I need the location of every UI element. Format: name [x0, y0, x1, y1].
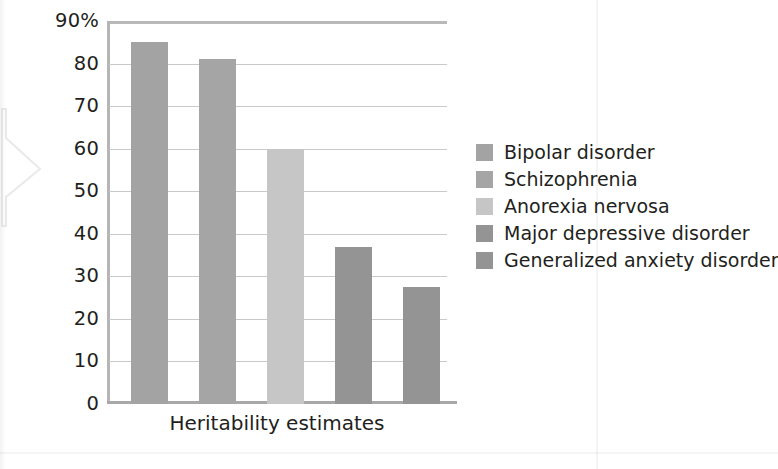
legend-swatch-icon-2	[476, 198, 493, 215]
legend-item-4[interactable]: Generalized anxiety disorder	[476, 247, 766, 274]
x-axis-title: Heritability estimates	[107, 410, 447, 436]
heritability-bar-chart: 90% 80 70 60 50 40 30 20 10 0 Heritabili…	[0, 0, 778, 469]
plot-area	[107, 21, 447, 404]
bar-2[interactable]	[267, 149, 304, 404]
legend-swatch-icon-1	[476, 171, 493, 188]
chart-legend: Bipolar disorderSchizophreniaAnorexia ne…	[476, 139, 766, 274]
legend-swatch-icon-3	[476, 225, 493, 242]
bars-layer	[107, 21, 447, 404]
y-tick-20: 20	[31, 309, 99, 329]
legend-label-1: Schizophrenia	[504, 170, 638, 189]
y-tick-30: 30	[31, 266, 99, 286]
legend-label-3: Major depressive disorder	[504, 224, 750, 243]
legend-item-0[interactable]: Bipolar disorder	[476, 139, 766, 166]
legend-swatch-icon-0	[476, 144, 493, 161]
bar-4[interactable]	[403, 287, 440, 404]
bar-1[interactable]	[199, 59, 236, 404]
y-tick-0: 0	[31, 394, 99, 414]
y-tick-10: 10	[31, 351, 99, 371]
legend-item-3[interactable]: Major depressive disorder	[476, 220, 766, 247]
legend-label-2: Anorexia nervosa	[504, 197, 670, 216]
legend-label-0: Bipolar disorder	[504, 143, 655, 162]
y-axis-tick-labels: 90% 80 70 60 50 40 30 20 10 0	[29, 0, 99, 469]
bar-0[interactable]	[131, 42, 168, 404]
y-tick-70: 70	[31, 96, 99, 116]
bar-3[interactable]	[335, 247, 372, 404]
legend-swatch-icon-4	[476, 252, 493, 269]
legend-item-1[interactable]: Schizophrenia	[476, 166, 766, 193]
y-tick-60: 60	[31, 139, 99, 159]
y-tick-40: 40	[31, 224, 99, 244]
legend-item-2[interactable]: Anorexia nervosa	[476, 193, 766, 220]
y-tick-80: 80	[31, 54, 99, 74]
y-tick-90: 90%	[31, 11, 99, 31]
legend-label-4: Generalized anxiety disorder	[504, 251, 778, 270]
y-tick-50: 50	[31, 181, 99, 201]
